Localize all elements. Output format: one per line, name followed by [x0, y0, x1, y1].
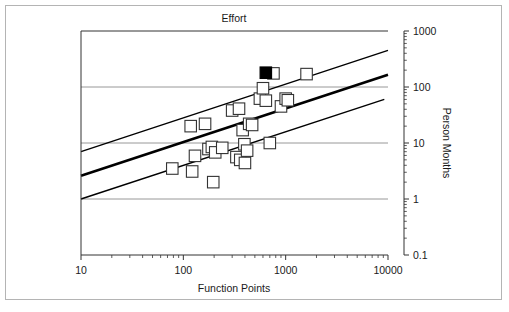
x-axis-tick-labels: 10100100010000	[75, 264, 403, 276]
y-tick-label: 10	[413, 137, 425, 149]
x-tick-label: 100	[175, 264, 193, 276]
figure-container: 0.11101001000 10100100010000 Effort Func…	[0, 0, 509, 312]
data-point	[241, 145, 253, 157]
data-point	[186, 166, 198, 178]
chart-title: Effort	[222, 12, 247, 24]
data-point	[257, 82, 269, 94]
x-tick-label: 10000	[373, 264, 402, 276]
data-point-highlighted	[260, 67, 272, 79]
y-axis-ticks	[404, 31, 409, 255]
y-tick-label: 100	[413, 81, 431, 93]
x-axis-ticks	[81, 255, 388, 260]
x-axis-title: Function Points	[198, 282, 270, 294]
y-tick-label: 0.1	[413, 249, 428, 261]
data-point	[189, 150, 201, 162]
x-tick-label: 1000	[274, 264, 298, 276]
y-tick-label: 1	[413, 193, 419, 205]
y-tick-label: 1000	[413, 25, 437, 37]
x-tick-label: 10	[75, 264, 87, 276]
data-point	[207, 176, 219, 188]
data-point	[199, 118, 211, 130]
data-point	[216, 142, 228, 154]
data-point	[233, 103, 245, 115]
data-point	[301, 68, 313, 80]
data-point	[246, 119, 257, 131]
y-axis-tick-labels: 0.11101001000	[413, 25, 437, 261]
data-point	[260, 95, 272, 107]
data-point	[167, 163, 179, 175]
data-point	[282, 94, 294, 106]
data-point	[239, 157, 251, 169]
effort-scatter-chart: 0.11101001000 10100100010000 Effort Func…	[0, 0, 509, 312]
data-point	[264, 137, 276, 149]
y-axis-title: Person Months	[441, 108, 453, 179]
data-point	[185, 120, 197, 132]
